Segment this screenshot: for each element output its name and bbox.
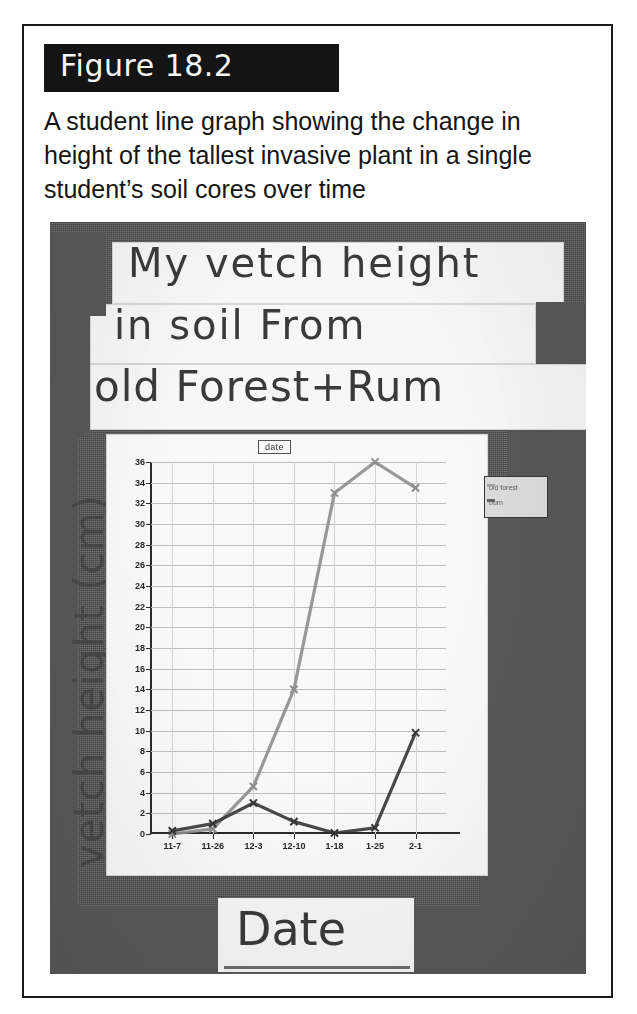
chart-series-layer <box>150 462 476 844</box>
handwritten-title-line-2: in soil From <box>114 302 367 348</box>
y-axis-tick-label: 28 <box>135 540 145 550</box>
y-axis-tick-label: 20 <box>135 622 145 632</box>
y-axis-tick-label: 6 <box>140 767 145 777</box>
chart-title-box: date <box>258 440 291 454</box>
chart-series-line <box>172 733 415 833</box>
handwritten-x-axis-underline <box>224 966 410 969</box>
figure-frame: Figure 18.2 A student line graph showing… <box>22 24 613 998</box>
y-axis-tick-label: 24 <box>135 581 145 591</box>
y-axis-tick-label: 30 <box>135 519 145 529</box>
photo-mat-block <box>50 906 230 974</box>
handwritten-title-line-1: My vetch height <box>128 240 480 286</box>
y-axis-tick-label: 18 <box>135 643 145 653</box>
y-axis-tick-label: 34 <box>135 478 145 488</box>
handwritten-title-line-3: old Forest+Rum <box>94 362 444 411</box>
handwritten-x-axis-label: Date <box>236 902 346 956</box>
legend-color-swatch <box>487 484 495 487</box>
legend-entry-burn: burn <box>489 499 503 506</box>
chart-legend: old forest burn <box>484 476 548 518</box>
chart-series-line <box>172 462 415 834</box>
photo-mat-block <box>50 316 90 436</box>
y-axis-tick-label: 10 <box>135 726 145 736</box>
photo-mat-block <box>410 906 586 974</box>
y-axis-tick-label: 12 <box>135 705 145 715</box>
legend-entry-old-forest: old forest <box>489 484 518 491</box>
y-axis-tick-label: 22 <box>135 602 145 612</box>
y-axis-tick-label: 14 <box>135 684 145 694</box>
y-axis-tick-label: 16 <box>135 664 145 674</box>
y-axis-tick-label: 8 <box>140 746 145 756</box>
y-axis-tick-label: 4 <box>140 788 145 798</box>
photo-mat-block <box>50 232 106 316</box>
y-axis-tick-label: 0 <box>140 829 145 839</box>
figure-number-label: Figure 18.2 <box>60 48 233 83</box>
photo-mat-block <box>480 492 586 908</box>
y-axis-tick-label: 32 <box>135 498 145 508</box>
printed-graph-sheet: date 024681012141618202224262830323436 1… <box>106 434 488 876</box>
y-axis-tick-label: 2 <box>140 808 145 818</box>
photo-mat-block <box>536 302 586 364</box>
y-axis-tick-label: 36 <box>135 457 145 467</box>
chart-plot-area: 024681012141618202224262830323436 11-711… <box>150 462 446 834</box>
y-axis-tick-label: 26 <box>135 560 145 570</box>
legend-color-swatch <box>487 499 495 502</box>
photograph-of-student-graph: My vetch height in soil From old Forest+… <box>50 222 586 974</box>
figure-caption: A student line graph showing the change … <box>44 104 564 206</box>
figure-number-banner: Figure 18.2 <box>44 44 339 92</box>
